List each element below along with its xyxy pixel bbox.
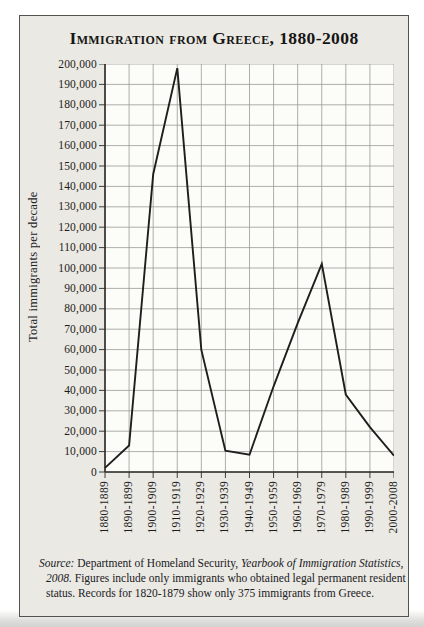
- x-tick-label: 1890-1899: [122, 481, 135, 534]
- page: { "figure": { "source_note": { "label": …: [0, 0, 424, 627]
- x-tick-label: 1970-1979: [315, 481, 328, 534]
- x-tick-label: 1940-1949: [243, 481, 256, 534]
- y-tick-label: 150,000: [20, 159, 97, 173]
- y-tick-label: 20,000: [20, 424, 97, 438]
- x-tick-label: 1960-1969: [291, 481, 304, 534]
- source-note: Source: Department of Homeland Security,…: [39, 556, 408, 601]
- y-tick-label: 110,000: [20, 240, 97, 254]
- y-tick-label: 60,000: [20, 342, 97, 356]
- y-tick-label: 140,000: [20, 179, 97, 193]
- source-label: Source:: [39, 557, 74, 569]
- y-tick-label: 190,000: [20, 77, 97, 91]
- y-tick-label: 0: [20, 465, 97, 479]
- y-tick-label: 30,000: [20, 403, 97, 417]
- y-tick-label: 100,000: [20, 261, 97, 275]
- y-tick-label: 80,000: [20, 301, 97, 315]
- y-tick-label: 10,000: [20, 444, 97, 458]
- y-tick-label: 120,000: [20, 220, 97, 234]
- y-tick-label: 130,000: [20, 199, 97, 213]
- x-tick-label: 1930-1939: [218, 481, 231, 534]
- y-tick-label: 170,000: [20, 118, 97, 132]
- y-axis-ticks: 200,000190,000180,000170,000160,000150,0…: [20, 64, 97, 472]
- x-tick-label: 1980-1989: [339, 481, 352, 534]
- y-tick-label: 90,000: [20, 281, 97, 295]
- x-tick-label: 2000-2008: [387, 481, 400, 534]
- y-tick-label: 160,000: [20, 138, 97, 152]
- x-tick-label: 1880-1889: [98, 481, 111, 534]
- x-axis-labels: 1880-18891890-18991900-19091910-19191920…: [105, 481, 394, 561]
- gridlines: [105, 64, 394, 472]
- x-tick-label: 1900-1909: [146, 481, 159, 534]
- line-chart-svg: [99, 64, 394, 478]
- y-tick-label: 40,000: [20, 383, 97, 397]
- source-text-2: Figures include only immigrants who obta…: [46, 572, 406, 599]
- x-tick-label: 1990-1999: [363, 481, 376, 534]
- x-tick-label: 1910-1919: [170, 481, 183, 534]
- chart-title: Immigration from Greece, 1880-2008: [20, 28, 408, 49]
- x-tick-label: 1950-1959: [267, 481, 280, 534]
- y-tick-label: 200,000: [20, 57, 97, 71]
- y-tick-label: 50,000: [20, 363, 97, 377]
- source-text-1: Department of Homeland Security,: [74, 557, 241, 569]
- y-tick-label: 180,000: [20, 97, 97, 111]
- y-tick-label: 70,000: [20, 322, 97, 336]
- figure-box: Immigration from Greece, 1880-2008 Total…: [19, 15, 409, 617]
- x-tick-label: 1920-1929: [194, 481, 207, 534]
